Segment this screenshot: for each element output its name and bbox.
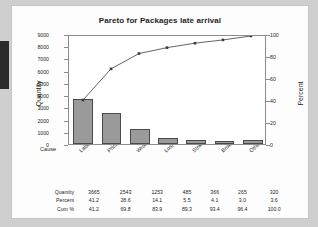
y-tick-mark-right [266, 57, 270, 58]
y-tick-label-right: 20 [270, 120, 296, 126]
table-row-label: Cum % [32, 205, 78, 214]
table-cell: 41.2 [78, 197, 110, 206]
y-axis-right-title: Percent [297, 81, 304, 105]
y-tick-label-left: 1000 [19, 130, 49, 136]
table-cell: 89.3 [173, 205, 201, 214]
y-tick-label-right: 60 [270, 76, 296, 82]
y-tick-mark-left [64, 145, 68, 146]
y-tick-label-left: 9000 [19, 32, 49, 38]
table-cell: 96.4 [229, 205, 257, 214]
table-cell: 5.5 [173, 197, 201, 206]
table-cell: 320 [256, 188, 292, 197]
cumulative-line [83, 36, 251, 100]
y-tick-label-left: 2000 [19, 118, 49, 124]
table-row: Percent41.228.614.15.54.13.03.6 [32, 197, 292, 206]
y-tick-mark-right [266, 101, 270, 102]
page-background: Pareto for Packages late arrival Quantit… [0, 0, 318, 227]
line-marker [110, 68, 113, 71]
line-marker [82, 99, 85, 102]
table-row-label: Percent [32, 197, 78, 206]
y-tick-mark-right [266, 35, 270, 36]
y-tick-label-right: 100 [270, 32, 296, 38]
table-cell: 69.8 [110, 205, 142, 214]
table-cell: 485 [173, 188, 201, 197]
table-cell: 100.0 [256, 205, 292, 214]
y-tick-label-left: 3000 [19, 105, 49, 111]
table-cell: 28.6 [110, 197, 142, 206]
table-row-label: Quantity [32, 188, 78, 197]
table-row: Cum %41.269.883.989.393.496.4100.0 [32, 205, 292, 214]
table-cell: 2543 [110, 188, 142, 197]
y-tick-label-left: 4000 [19, 93, 49, 99]
table-cell: 1253 [141, 188, 173, 197]
y-tick-label-left: 0 [19, 142, 49, 148]
table-cell: 41.2 [78, 205, 110, 214]
y-tick-label-left: 7000 [19, 56, 49, 62]
page-title: Pareto for Packages late arrival [12, 16, 308, 25]
y-tick-mark-right [266, 145, 270, 146]
y-tick-mark-right [266, 123, 270, 124]
plot-area [68, 35, 266, 145]
table-cell: 3.6 [256, 197, 292, 206]
data-table: Quantity366525431253485366265320Percent4… [32, 188, 292, 214]
y-tick-mark-right [266, 79, 270, 80]
line-marker [194, 42, 197, 45]
y-tick-label-left: 5000 [19, 81, 49, 87]
y-tick-label-left: 6000 [19, 69, 49, 75]
table-cell: 366 [201, 188, 229, 197]
y-tick-label-left: 8000 [19, 44, 49, 50]
table-cell: 83.9 [141, 205, 173, 214]
chart-card: Pareto for Packages late arrival Quantit… [12, 6, 308, 218]
y-tick-label-right: 40 [270, 98, 296, 104]
left-edge-slab [0, 41, 9, 89]
table-cell: 3.0 [229, 197, 257, 206]
table-cell: 4.1 [201, 197, 229, 206]
table-cell: 265 [229, 188, 257, 197]
line-marker [166, 46, 169, 49]
table-cell: 3665 [78, 188, 110, 197]
cumulative-line-layer [69, 36, 265, 145]
line-marker [222, 39, 225, 42]
line-marker [138, 52, 141, 55]
y-tick-label-right: 0 [270, 142, 296, 148]
table-cell: 14.1 [141, 197, 173, 206]
y-tick-label-right: 80 [270, 54, 296, 60]
table-row: Quantity366525431253485366265320 [32, 188, 292, 197]
table-cell: 93.4 [201, 205, 229, 214]
line-marker [250, 36, 253, 37]
